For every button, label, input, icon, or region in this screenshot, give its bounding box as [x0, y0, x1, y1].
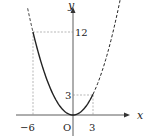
- y-tick-3: 3: [65, 90, 71, 101]
- y-tick-12: 12: [75, 27, 88, 38]
- x-axis-label: x: [137, 109, 144, 122]
- x-axis-arrow-icon: [124, 113, 130, 118]
- parabola-solid-segment: [33, 32, 93, 115]
- origin-label: O: [63, 122, 71, 133]
- x-tick-3: 3: [89, 122, 95, 133]
- parabola-dashed-right: [93, 0, 128, 94]
- guide-lines: [33, 32, 93, 115]
- parabola-diagram: x y O −6 3 12 3: [0, 0, 147, 139]
- x-tick-neg6: −6: [20, 122, 35, 133]
- y-axis-label: y: [67, 0, 75, 12]
- parabola-dashed-left: [28, 8, 33, 32]
